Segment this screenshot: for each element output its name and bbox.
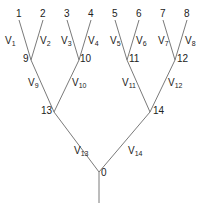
edge-label-v11: V11 [122, 78, 136, 88]
edge-label-letter: V [110, 35, 117, 46]
edge-label-v13: V13 [74, 146, 88, 156]
edge-label-v12: V12 [168, 78, 182, 88]
edge-label-letter: V [158, 35, 165, 46]
edge-label-letter: V [128, 145, 135, 156]
edge-label-subscript: 11 [129, 82, 136, 89]
edge-label-v3: V3 [61, 36, 72, 46]
edge-label-subscript: 12 [175, 82, 183, 89]
edge-label-subscript: 1 [12, 40, 16, 47]
node-label-10: 10 [80, 54, 91, 64]
edge-13-0 [54, 112, 99, 172]
edge-label-v2: V2 [40, 36, 51, 46]
tree-diagram: V1V2V3V4V5V6V7V8V9V10V11V12V13V141234567… [0, 0, 197, 207]
edge-label-subscript: 4 [95, 40, 99, 47]
edge-label-v9: V9 [28, 78, 39, 88]
edge-label-letter: V [61, 35, 68, 46]
node-label-0: 0 [101, 168, 107, 178]
edge-label-v1: V1 [5, 36, 16, 46]
edge-label-letter: V [5, 35, 12, 46]
edge-label-letter: V [72, 77, 79, 88]
edge-label-letter: V [74, 145, 81, 156]
edge-label-v8: V8 [185, 36, 196, 46]
node-label-14: 14 [153, 106, 164, 116]
edge-label-letter: V [28, 77, 35, 88]
edge-label-v10: V10 [72, 78, 86, 88]
edge-label-v4: V4 [88, 36, 99, 46]
edge-label-subscript: 13 [81, 150, 89, 157]
edge-label-subscript: 7 [165, 40, 169, 47]
edge-label-subscript: 9 [35, 82, 39, 89]
edge-label-subscript: 5 [117, 40, 121, 47]
edge-label-letter: V [40, 35, 47, 46]
node-label-13: 13 [41, 106, 52, 116]
node-label-9: 9 [23, 54, 29, 64]
edge-14-0 [99, 112, 150, 172]
node-label-12: 12 [177, 54, 188, 64]
node-label-5: 5 [112, 9, 118, 19]
edge-label-letter: V [88, 35, 95, 46]
node-label-2: 2 [40, 9, 46, 19]
edge-label-letter: V [136, 35, 143, 46]
edge-label-v5: V5 [110, 36, 121, 46]
node-label-3: 3 [64, 9, 70, 19]
edge-label-subscript: 8 [192, 40, 196, 47]
edge-label-subscript: 10 [79, 82, 87, 89]
edge-label-v7: V7 [158, 36, 169, 46]
edge-label-letter: V [168, 77, 175, 88]
edge-label-subscript: 3 [68, 40, 72, 47]
node-label-4: 4 [88, 9, 94, 19]
edge-label-v6: V6 [136, 36, 147, 46]
edge-label-letter: V [185, 35, 192, 46]
node-label-8: 8 [184, 9, 190, 19]
tree-edges [0, 0, 197, 207]
node-label-1: 1 [16, 9, 22, 19]
edge-label-letter: V [122, 77, 129, 88]
node-label-7: 7 [160, 9, 166, 19]
node-label-6: 6 [136, 9, 142, 19]
edge-label-subscript: 14 [135, 150, 143, 157]
edge-label-subscript: 2 [47, 40, 51, 47]
node-label-11: 11 [129, 54, 139, 64]
edge-label-subscript: 6 [143, 40, 147, 47]
edge-label-v14: V14 [128, 146, 142, 156]
